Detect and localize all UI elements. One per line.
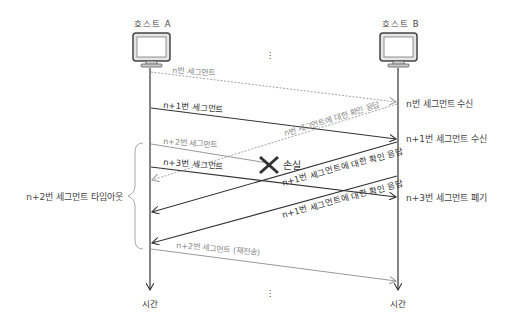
- label-ack-n: n번 세그먼트에 대한 확인 응답: [283, 99, 382, 138]
- time-label-a: 시간: [142, 299, 158, 309]
- tcp-retransmission-diagram: 호스트 A 호스트 B ⋮ ⋮ 시간 시간 n번 세그먼트 n+1번 세그먼트 …: [0, 0, 512, 327]
- ellipsis-bottom: ⋮: [266, 288, 275, 298]
- loss-x-icon: [260, 157, 278, 173]
- host-b-monitor-icon: [380, 33, 417, 67]
- host-b-label: 호스트 B: [382, 19, 420, 29]
- label-ack-n1-second: n+1번 세그먼트에 대한 확인 응답: [281, 178, 404, 220]
- host-b-event-discard-n3: n+3번 세그먼트 폐기: [406, 192, 487, 203]
- label-seg-n: n번 세그먼트: [172, 65, 215, 78]
- host-a-monitor-icon: [133, 33, 170, 67]
- arrow-ack-n1-first: [152, 142, 397, 212]
- timeout-brace-icon: [128, 143, 143, 249]
- host-a-label: 호스트 A: [134, 19, 172, 29]
- ellipsis-top: ⋮: [266, 50, 275, 60]
- label-seg-n1: n+1번 세그먼트: [163, 100, 224, 114]
- loss-label: 손실: [283, 160, 301, 171]
- time-label-b: 시간: [390, 299, 406, 309]
- arrow-ack-n1-second: [152, 176, 397, 243]
- host-b-event-receive-n1: n+1번 세그먼트 수신: [406, 134, 487, 144]
- arrow-seg-n2-retransmit: [151, 249, 396, 281]
- arrow-seg-n: [151, 72, 396, 102]
- timeout-label: n+2번 세그먼트 타임아웃: [26, 191, 123, 202]
- label-seg-n2-retransmit: n+2번 세그먼트 (재전송): [176, 240, 261, 257]
- host-b-event-receive-n: n번 세그먼트 수신: [406, 99, 473, 109]
